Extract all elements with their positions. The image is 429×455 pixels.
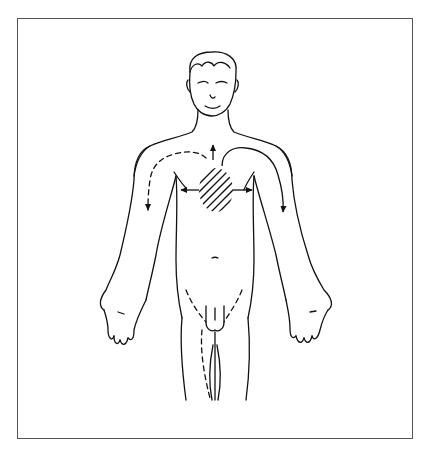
body-diagram <box>0 0 429 455</box>
right-arm <box>100 146 176 344</box>
left-arm <box>254 146 331 342</box>
torso <box>134 110 292 331</box>
head <box>187 52 239 116</box>
pain-region <box>190 160 245 223</box>
